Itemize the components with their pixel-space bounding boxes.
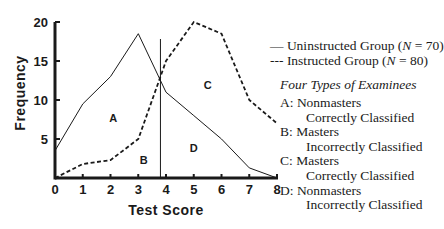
x-tick-label: 5 — [190, 182, 197, 197]
instructed-curve — [55, 22, 277, 178]
region-label-c: C — [204, 79, 212, 91]
y-tick-label: 5 — [41, 132, 48, 147]
x-tick-label: 7 — [246, 182, 253, 197]
x-tick-label: 1 — [79, 182, 86, 197]
legend-uninstructed: — Uninstructed Group (N = 70) — [270, 38, 444, 53]
type-item-a: A: Nonmasters Correctly Classified — [270, 96, 444, 125]
region-label-a: A — [109, 112, 117, 124]
types-title: Four Types of Examinees — [270, 77, 444, 92]
y-axis-title: Frequency — [12, 55, 28, 130]
axes: 0123456785101520 — [34, 15, 281, 197]
x-tick-label: 6 — [218, 182, 225, 197]
curves — [55, 22, 277, 178]
x-tick-label: 0 — [51, 182, 58, 197]
dashed-line-symbol: --- — [270, 53, 284, 68]
x-tick-label: 3 — [135, 182, 142, 197]
legend: — Uninstructed Group (N = 70) --- Instru… — [270, 38, 444, 213]
uninstructed-curve — [55, 34, 277, 178]
y-tick-label: 20 — [34, 15, 48, 30]
region-label-d: D — [190, 142, 198, 154]
x-tick-label: 2 — [107, 182, 114, 197]
solid-line-symbol: — — [270, 38, 284, 53]
region-label-b: B — [140, 154, 148, 166]
type-item-b: B: Masters Incorrectly Classified — [270, 125, 444, 154]
x-tick-label: 4 — [162, 182, 170, 197]
y-tick-label: 10 — [34, 93, 48, 108]
type-item-c: C: Masters Correctly Classified — [270, 154, 444, 183]
type-item-d: D: Nonmasters Incorrectly Classified — [270, 184, 444, 213]
y-tick-label: 15 — [34, 54, 48, 69]
x-axis-title: Test Score — [128, 202, 204, 218]
legend-instructed: --- Instructed Group (N = 80) — [270, 53, 444, 68]
